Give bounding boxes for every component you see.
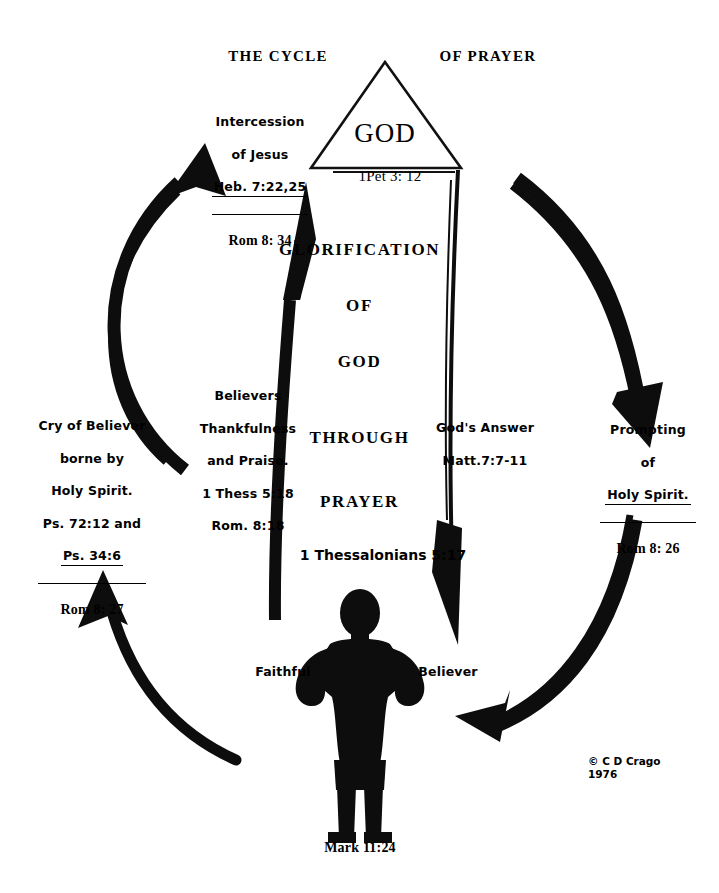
node-intercession-line-3: Heb. 7:22,25 <box>196 179 324 196</box>
node-prompting-footer: Rom 8: 26 <box>586 540 710 558</box>
god-label: GOD <box>335 118 435 150</box>
faithful-believer-figure-icon <box>296 589 425 843</box>
node-intercession-line-2: of Jesus <box>196 147 324 163</box>
god-triangle-icon <box>311 62 461 172</box>
figure-label-faithful: Faithful <box>248 665 318 680</box>
node-thankfulness-line-5: Rom. 8:18 <box>185 518 311 534</box>
copyright-block: © C D Crago 1976 <box>588 755 698 781</box>
title-right: OF PRAYER <box>428 48 548 66</box>
node-cry-line-5: Ps. 34:6 <box>20 548 164 565</box>
center-word-4: THROUGH <box>0 428 719 448</box>
node-prompting-line-2: of <box>586 455 710 471</box>
god-reference: 1Pet 3: 12 <box>335 168 445 186</box>
node-cry-divider <box>38 583 146 584</box>
node-thankfulness: Believers Thankfulness and Praise. 1 The… <box>185 372 311 551</box>
copyright-holder: C D Crago <box>602 755 660 767</box>
node-prompting-divider <box>600 522 696 523</box>
node-cry-line-2: borne by <box>20 451 164 467</box>
node-thankfulness-line-3: and Praise. <box>185 453 311 469</box>
figure-label-believer: Believer <box>410 665 486 680</box>
node-cry-line-4: Ps. 72:12 and <box>20 516 164 532</box>
figure-reference: Mark 11:24 <box>300 840 420 857</box>
node-gods-answer-line-2: Matt.7:7-11 <box>423 453 547 469</box>
copyright-year: 1976 <box>588 768 698 781</box>
node-thankfulness-line-1: Believers <box>185 388 311 404</box>
node-intercession-line-1: Intercession <box>196 114 324 130</box>
center-word-3: GOD <box>0 352 719 372</box>
node-cry-footer: Rom 8: 27 <box>20 601 164 619</box>
center-word-5: PRAYER <box>0 492 719 512</box>
center-reference: 1 Thessalonians 5:17 <box>283 547 483 564</box>
center-word-2: OF <box>0 296 719 316</box>
copyright-symbol-icon: © <box>588 755 599 767</box>
copyright-line: © C D Crago <box>588 755 698 768</box>
node-intercession-divider <box>212 214 308 215</box>
center-word-1: GLORIFICATION <box>0 240 719 260</box>
prayer-cycle-diagram: THE CYCLE OF PRAYER GOD 1Pet 3: 12 Inter… <box>0 0 719 893</box>
title-left: THE CYCLE <box>218 48 338 66</box>
